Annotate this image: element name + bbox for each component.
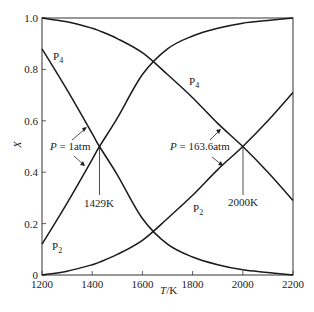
y-tick-label: 0 bbox=[33, 269, 39, 281]
y-tick-label: 0.6 bbox=[24, 115, 38, 127]
phosphorus-equilibrium-chart: 12001400160018002000220000.20.40.60.81.0… bbox=[0, 0, 314, 312]
x-tick-label: 2200 bbox=[282, 278, 305, 290]
pressure-1atm-label: P = 1atm bbox=[49, 140, 91, 152]
p4-right-label: P4 bbox=[189, 75, 199, 90]
curve-series-1 bbox=[42, 18, 293, 244]
x-axis-title: T/K bbox=[160, 284, 177, 296]
pressure-163-label: P = 163.6atm bbox=[169, 140, 230, 152]
x-tick-label: 1600 bbox=[131, 278, 154, 290]
x-tick-label: 2000 bbox=[232, 278, 255, 290]
y-tick-label: 0.2 bbox=[24, 218, 38, 230]
y-axis-title: X bbox=[11, 140, 23, 149]
x-tick-label: 1800 bbox=[182, 278, 205, 290]
p4-left-label: P4 bbox=[53, 50, 63, 65]
curve-series-2 bbox=[42, 18, 293, 200]
y-tick-label: 1.0 bbox=[24, 12, 38, 24]
p2-right-label: P2 bbox=[193, 202, 203, 217]
temp-2000k-label: 2000K bbox=[228, 196, 258, 208]
temp-1429k-label: 1429K bbox=[84, 197, 114, 209]
curve-series-3 bbox=[42, 93, 293, 275]
curve-series-0 bbox=[42, 49, 293, 275]
y-tick-label: 0.4 bbox=[24, 166, 38, 178]
chart-svg: 12001400160018002000220000.20.40.60.81.0… bbox=[0, 0, 314, 312]
y-tick-label: 0.8 bbox=[24, 63, 38, 75]
p2-left-label: P2 bbox=[52, 240, 62, 255]
arrowhead-icon bbox=[218, 161, 223, 166]
x-tick-label: 1400 bbox=[81, 278, 104, 290]
